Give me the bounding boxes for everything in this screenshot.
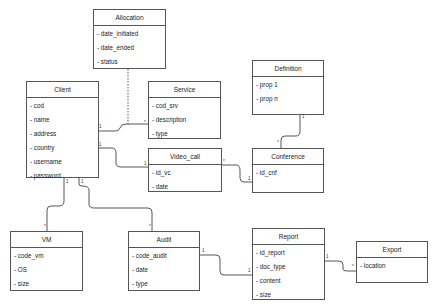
class-export[interactable]: Export - location	[356, 241, 428, 283]
mult-label: *	[144, 120, 146, 125]
class-client[interactable]: Client - cod - name - address - country …	[26, 81, 99, 178]
class-name: Conference	[253, 149, 323, 165]
class-name: Definition	[253, 61, 323, 77]
class-name: Service	[149, 82, 220, 98]
mult-label: 1	[144, 161, 147, 166]
attribute: - id_cnf	[253, 167, 323, 181]
class-audit[interactable]: Audit - code_audit - date - type	[128, 231, 200, 291]
class-conference[interactable]: Conference - id_cnf	[252, 148, 324, 193]
attribute: - size	[11, 278, 82, 292]
mult-label: 1	[326, 254, 329, 259]
class-vm[interactable]: VM - code_vm - OS - size	[10, 231, 83, 291]
attribute: - cod_srv	[149, 100, 220, 114]
class-name: Client	[27, 82, 98, 98]
attribute: - id_vc	[149, 167, 221, 181]
audit-report-line	[200, 255, 253, 275]
mult-label: *	[44, 224, 46, 229]
attribute: - id_report	[253, 247, 324, 261]
attribute: - OS	[11, 264, 82, 278]
attribute: - description	[149, 114, 220, 128]
attribute: - password	[27, 170, 98, 184]
attribute: - type	[129, 278, 199, 292]
mult-label: 1	[99, 124, 102, 129]
mult-label: 1	[202, 248, 205, 253]
attribute: - name	[27, 114, 98, 128]
mult-label: *	[352, 264, 354, 269]
client-service-line	[98, 124, 148, 131]
class-name: Allocation	[94, 10, 165, 26]
mult-label: *	[223, 159, 225, 164]
class-name: VM	[11, 232, 82, 248]
mult-label: 1	[248, 268, 251, 273]
attribute: - cod	[27, 100, 98, 114]
attribute: - date_initiated	[94, 28, 165, 42]
class-report[interactable]: Report - id_report - doc_type - content …	[252, 228, 325, 300]
class-name: Export	[357, 242, 427, 258]
attribute: - code_audit	[129, 250, 199, 264]
class-allocation[interactable]: Allocation - date_initiated - date_ended…	[93, 9, 166, 69]
attribute: - date_ended	[94, 42, 165, 56]
attribute: - type	[149, 128, 220, 142]
attribute: - username	[27, 156, 98, 170]
mult-label: 1	[248, 176, 251, 181]
class-definition[interactable]: Definition - prop 1 - prop n	[252, 60, 324, 115]
attribute: - date	[129, 264, 199, 278]
client-videocall-line	[98, 148, 148, 167]
attribute: - date	[149, 181, 221, 195]
class-video-call[interactable]: Video_call - id_vc - date	[148, 148, 222, 192]
attribute: - code_vm	[11, 250, 82, 264]
attribute: - status	[94, 56, 165, 70]
attribute: - doc_type	[253, 261, 324, 275]
attribute: - location	[357, 260, 427, 274]
client-audit-line	[79, 177, 152, 231]
mult-label: 1	[99, 142, 102, 147]
definition-conference-line	[281, 115, 300, 148]
class-service[interactable]: Service - cod_srv - description - type	[148, 81, 221, 139]
attribute: - size	[253, 289, 324, 303]
class-name: Video_call	[149, 149, 221, 165]
mult-label: *	[149, 224, 151, 229]
class-name: Audit	[129, 232, 199, 248]
client-vm-line	[47, 177, 64, 231]
mult-label: *	[277, 140, 279, 145]
class-name: Report	[253, 229, 324, 245]
attribute: - prop 1	[253, 79, 323, 93]
attribute: - country	[27, 142, 98, 156]
attribute: - content	[253, 275, 324, 289]
attribute: - prop n	[253, 93, 323, 107]
attribute: - address	[27, 128, 98, 142]
